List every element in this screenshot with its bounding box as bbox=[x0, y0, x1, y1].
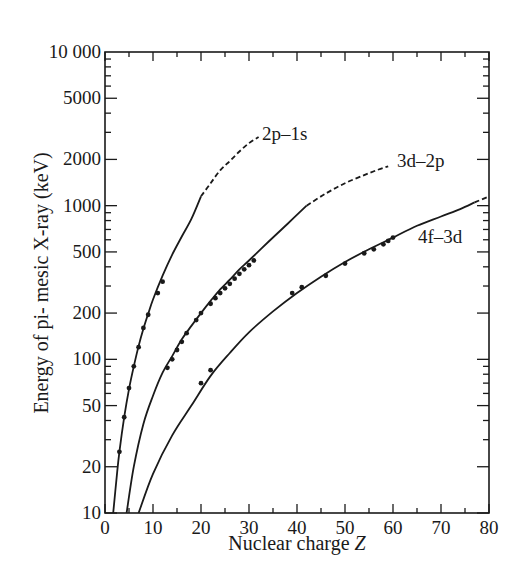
x-tick-label: 80 bbox=[480, 517, 499, 538]
data-point bbox=[381, 242, 386, 247]
curve-3d-2p-solid bbox=[127, 206, 307, 513]
y-tick-label: 200 bbox=[73, 302, 102, 323]
x-tick-label: 60 bbox=[384, 517, 403, 538]
data-point bbox=[165, 365, 170, 370]
data-point bbox=[117, 449, 122, 454]
curve-label-4f-3d: 4f–3d bbox=[418, 226, 463, 247]
data-point bbox=[343, 261, 348, 266]
y-tick-label: 1000 bbox=[63, 195, 101, 216]
data-point bbox=[179, 339, 184, 344]
data-point bbox=[362, 251, 367, 256]
data-point bbox=[218, 291, 223, 296]
data-point bbox=[371, 247, 376, 252]
data-point bbox=[213, 296, 218, 301]
data-point bbox=[227, 281, 232, 286]
data-point bbox=[247, 263, 252, 268]
y-axis-title: Energy of pi- mesic X-ray (keV) bbox=[30, 152, 53, 413]
curve-label-2p-1s: 2p–1s bbox=[262, 123, 307, 144]
y-tick-label: 50 bbox=[82, 395, 101, 416]
y-tick-label: 2000 bbox=[63, 148, 101, 169]
data-point bbox=[232, 276, 237, 281]
data-point bbox=[122, 415, 127, 420]
x-tick-label: 70 bbox=[432, 517, 451, 538]
x-tick-label: 20 bbox=[192, 517, 211, 538]
data-point bbox=[184, 331, 189, 336]
curve-label-3d-2p: 3d–2p bbox=[397, 150, 445, 171]
data-point bbox=[237, 271, 242, 276]
curve-4f-3d-dashed bbox=[475, 196, 489, 202]
x-tick-label: 0 bbox=[100, 517, 110, 538]
data-point bbox=[131, 364, 136, 369]
data-point bbox=[175, 348, 180, 353]
y-tick-label: 500 bbox=[73, 241, 102, 262]
data-point bbox=[199, 311, 204, 316]
data-point bbox=[146, 312, 151, 317]
y-tick-label: 5000 bbox=[63, 87, 101, 108]
data-point bbox=[290, 291, 295, 296]
curves bbox=[113, 137, 489, 513]
data-point bbox=[391, 235, 396, 240]
data-point bbox=[141, 326, 146, 331]
data-point bbox=[208, 368, 213, 373]
data-points bbox=[117, 235, 395, 454]
data-point bbox=[160, 279, 165, 284]
data-point bbox=[170, 357, 175, 362]
data-point bbox=[251, 258, 256, 263]
x-axis-title: Nuclear charge Z bbox=[228, 532, 366, 555]
y-tick-label: 10 bbox=[82, 502, 101, 523]
data-point bbox=[323, 273, 328, 278]
curve-2p-1s-dashed bbox=[201, 137, 259, 196]
data-point bbox=[136, 345, 141, 350]
x-tick-label: 10 bbox=[144, 517, 163, 538]
y-tick-label: 20 bbox=[82, 456, 101, 477]
data-point bbox=[199, 381, 204, 386]
data-point bbox=[386, 238, 391, 243]
y-axis-ticks: 10205010020050010002000500010 000 bbox=[49, 41, 489, 523]
chart: 01020304050607080 1020501002005001000200… bbox=[0, 0, 520, 585]
y-tick-label: 10 000 bbox=[49, 41, 101, 62]
curve-4f-3d-solid bbox=[139, 202, 475, 513]
data-point bbox=[242, 267, 247, 272]
data-point bbox=[208, 301, 213, 306]
data-point bbox=[155, 291, 160, 296]
curve-3d-2p-dashed bbox=[307, 166, 389, 205]
data-point bbox=[127, 386, 132, 391]
y-tick-label: 100 bbox=[73, 348, 102, 369]
data-point bbox=[194, 318, 199, 323]
data-point bbox=[223, 286, 228, 291]
data-point bbox=[299, 285, 304, 290]
